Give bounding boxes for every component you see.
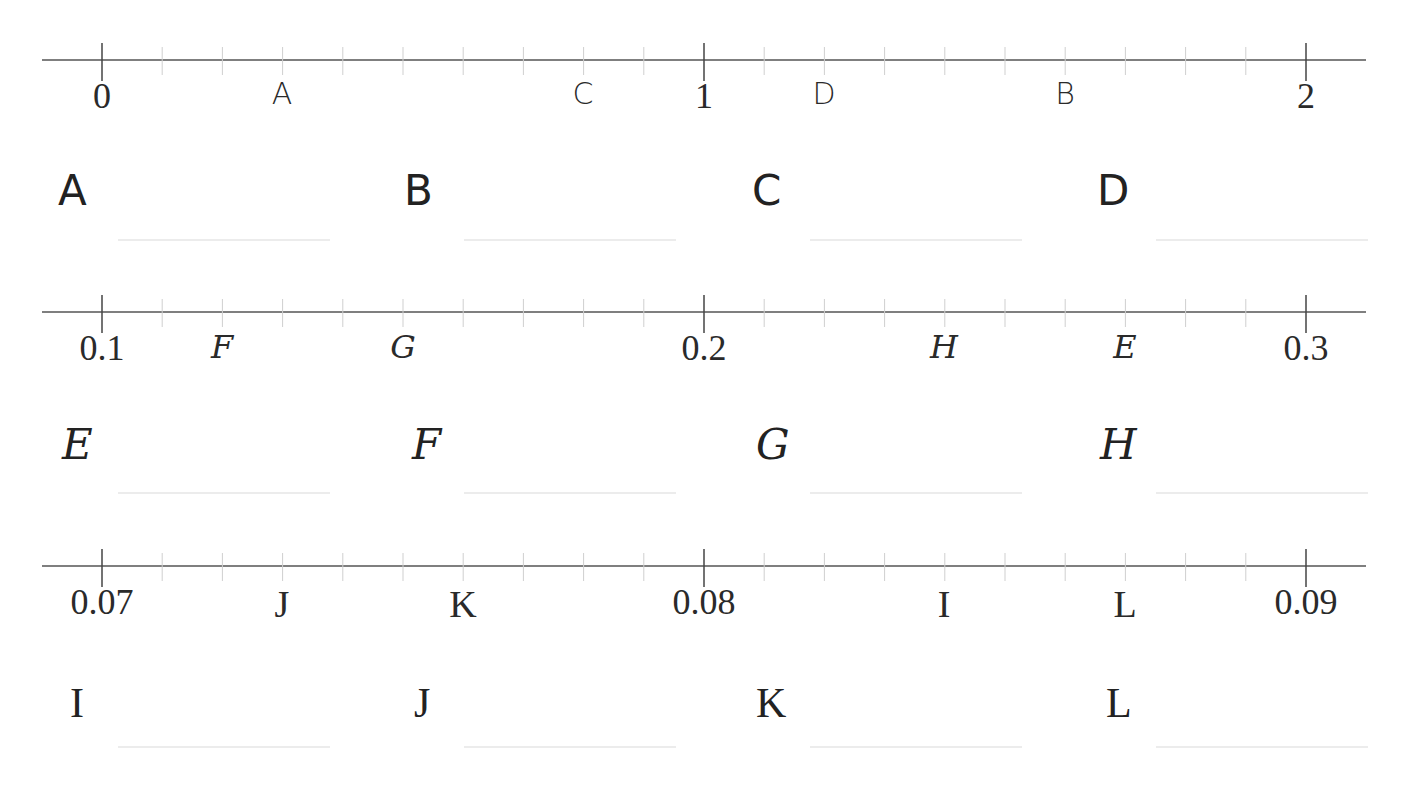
answer-line-k[interactable] [810, 746, 1022, 748]
question-label-g: G [756, 424, 790, 466]
question-label-f: F [412, 424, 441, 466]
answer-line-a[interactable] [118, 239, 330, 241]
answer-line-c[interactable] [810, 239, 1022, 241]
point-label-j: J [275, 585, 290, 623]
answer-line-j[interactable] [464, 746, 676, 748]
point-label-k: K [449, 585, 476, 623]
endpoint-label: 1 [695, 78, 713, 114]
question-label-h: H [1100, 424, 1137, 466]
endpoint-label: 0 [93, 78, 111, 114]
question-label-i: I [70, 682, 84, 724]
answer-line-l[interactable] [1156, 746, 1368, 748]
question-label-b: B [404, 170, 433, 212]
point-label-a: A [272, 79, 293, 109]
answer-line-h[interactable] [1156, 492, 1368, 494]
endpoint-label: 0.1 [80, 330, 125, 366]
point-label-g: G [390, 331, 416, 363]
endpoint-label: 0.3 [1284, 330, 1329, 366]
point-label-c: C [573, 79, 594, 109]
answer-line-g[interactable] [810, 492, 1022, 494]
point-label-h: H [930, 331, 958, 363]
point-label-e: E [1113, 331, 1136, 363]
question-label-d: D [1097, 170, 1129, 212]
answer-line-e[interactable] [118, 492, 330, 494]
question-label-a: A [58, 170, 87, 212]
number-line-1: 012ACDB [0, 40, 1410, 120]
number-line-2: 0.10.20.3FGHE [0, 292, 1410, 372]
endpoint-label: 0.09 [1275, 584, 1338, 620]
question-label-e: E [62, 424, 93, 466]
point-label-d: D [812, 79, 835, 109]
answer-line-b[interactable] [464, 239, 676, 241]
answer-line-f[interactable] [464, 492, 676, 494]
endpoint-label: 0.2 [682, 330, 727, 366]
endpoint-label: 0.08 [673, 584, 736, 620]
point-label-b: B [1055, 79, 1075, 109]
answer-line-i[interactable] [118, 746, 330, 748]
number-line-3: 0.070.080.09JKIL [0, 546, 1410, 626]
question-label-j: J [414, 682, 430, 724]
point-label-l: L [1113, 585, 1136, 623]
question-label-c: C [752, 170, 781, 212]
point-label-f: F [211, 331, 233, 363]
question-label-l: L [1106, 682, 1132, 724]
endpoint-label: 2 [1297, 78, 1315, 114]
endpoint-label: 0.07 [71, 584, 134, 620]
question-label-k: K [756, 682, 786, 724]
point-label-i: I [938, 585, 951, 623]
answer-line-d[interactable] [1156, 239, 1368, 241]
